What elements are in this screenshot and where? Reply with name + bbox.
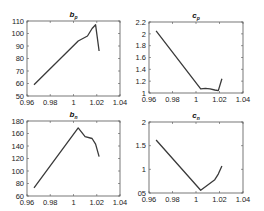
subplot-c-n: 0.960.9811.021.040511.52cn <box>136 111 251 204</box>
subplot-title: cp <box>192 11 200 21</box>
subplot-title: cn <box>192 111 200 121</box>
y-tick-label: 120 <box>11 154 24 163</box>
x-tick-label: 1.02 <box>212 195 227 204</box>
y-tick-label: 1.4 <box>136 65 146 74</box>
y-tick-label: 1.6 <box>136 53 146 62</box>
x-tick-label: 1 <box>71 198 75 207</box>
x-tick-label: 1.02 <box>89 98 104 107</box>
x-tick-label: 1.04 <box>236 195 251 204</box>
subplot-c-p: 0.960.9811.021.0411.21.41.61.822.2cp <box>136 11 251 104</box>
y-tick-label: 60 <box>16 79 24 88</box>
data-line <box>156 140 222 190</box>
data-line <box>156 31 222 91</box>
y-tick-label: 1 <box>142 165 146 174</box>
y-tick-label: 2 <box>142 118 146 127</box>
y-tick-label: 80 <box>16 54 24 63</box>
y-tick-label: 100 <box>11 167 24 176</box>
y-tick-label: 2.2 <box>136 18 146 27</box>
x-tick-label: 0.98 <box>165 195 180 204</box>
y-tick-label: 160 <box>11 129 24 138</box>
axes-box <box>27 121 120 196</box>
y-tick-label: 140 <box>11 142 24 151</box>
y-tick-label: 110 <box>12 17 24 26</box>
y-tick-label: 100 <box>11 29 24 38</box>
x-tick-label: 1.04 <box>113 98 128 107</box>
x-tick-label: 0.98 <box>43 98 58 107</box>
y-tick-label: 80 <box>16 179 24 188</box>
y-tick-label: 1.2 <box>136 77 146 86</box>
data-line <box>34 25 99 85</box>
x-tick-label: 1.04 <box>113 198 128 207</box>
y-tick-label: 1.5 <box>136 141 146 150</box>
subplot-b-n: 0.960.9811.021.046080100120140160180bn <box>11 110 127 207</box>
x-tick-label: 1.02 <box>89 198 104 207</box>
y-tick-label: 180 <box>11 117 24 126</box>
y-tick-label: 05 <box>138 189 146 198</box>
x-tick-label: 1 <box>71 98 75 107</box>
y-tick-label: 1.8 <box>136 41 146 50</box>
x-tick-label: 0.98 <box>43 198 58 207</box>
x-tick-label: 1.02 <box>212 95 227 104</box>
figure-canvas: 0.960.9811.021.045060708090100110bp0.960… <box>0 0 264 211</box>
y-tick-label: 70 <box>16 67 24 76</box>
x-tick-label: 1.04 <box>236 95 251 104</box>
axes-box <box>27 21 120 96</box>
y-tick-label: 2 <box>142 30 146 39</box>
x-tick-label: 1 <box>194 195 198 204</box>
y-tick-label: 60 <box>16 192 24 201</box>
subplot-b-p: 0.960.9811.021.045060708090100110bp <box>11 10 127 107</box>
axes-box <box>149 122 243 193</box>
x-tick-label: 1 <box>194 95 198 104</box>
y-tick-label: 50 <box>16 92 24 101</box>
y-tick-label: 1 <box>142 89 146 98</box>
data-line <box>34 128 99 188</box>
subplot-title: bp <box>70 10 78 20</box>
x-tick-label: 0.98 <box>165 95 180 104</box>
y-tick-label: 90 <box>16 42 24 51</box>
subplot-title: bn <box>70 110 78 120</box>
